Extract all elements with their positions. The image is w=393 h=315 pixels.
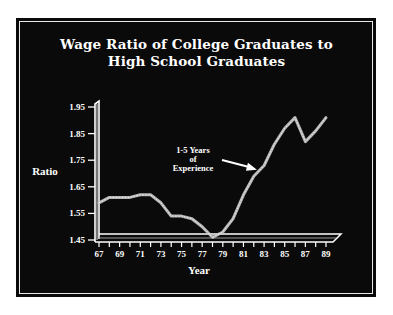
x-axis-label: Year [188,264,210,276]
x-tick-label: 85 [280,249,290,259]
y-tick-label: 1.45 [69,235,85,245]
x-tick-label: 73 [156,249,166,259]
data-series-line [99,118,326,238]
x-tick-label: 87 [301,249,311,259]
x-tick-label: 71 [136,249,146,259]
y-axis: 1.951.851.751.651.551.45 [69,101,99,245]
x-tick-label: 67 [95,249,105,259]
annotation-text-line: Experience [173,163,214,173]
x-tick-label: 79 [218,249,228,259]
chart-plot: 1.951.851.751.651.551.45 676971737577798… [0,0,393,315]
x-tick-label: 81 [239,249,249,259]
y-tick-label: 1.95 [69,102,85,112]
x-tick-label: 89 [322,249,332,259]
arrow-head-icon [246,163,257,171]
annotation-experience: 1-5 YearsofExperience [173,145,257,173]
x-tick-label: 77 [198,249,208,259]
y-tick-label: 1.85 [69,129,85,139]
series-line [99,118,326,238]
y-axis-label: Ratio [32,165,58,177]
y-tick-label: 1.65 [69,182,85,192]
x-tick-label: 69 [115,249,125,259]
x-tick-label: 75 [177,249,187,259]
x-tick-label: 83 [260,249,270,259]
series-line-texture [99,118,326,238]
x-axis: 676971737577798183858789 [95,234,342,259]
y-tick-label: 1.55 [69,208,85,218]
y-tick-label: 1.75 [69,155,85,165]
